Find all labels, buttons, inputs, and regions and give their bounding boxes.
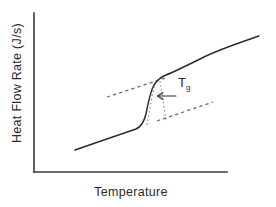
post-transition-tangent-line: [157, 102, 213, 121]
heat-flow-rate-curve: [75, 36, 259, 150]
y-axis-title: Heat Flow Rate (J/s): [10, 23, 24, 143]
plot-canvas: T g Heat Flow Rate (J/s) Temperature: [0, 0, 276, 207]
tg-symbol-label: T: [178, 75, 186, 90]
tg-subscript-label: g: [186, 83, 190, 92]
x-axis-title: Temperature: [94, 185, 167, 199]
inflection-guide-right: [160, 81, 166, 120]
dsc-glass-transition-figure: T g Heat Flow Rate (J/s) Temperature: [0, 0, 276, 207]
